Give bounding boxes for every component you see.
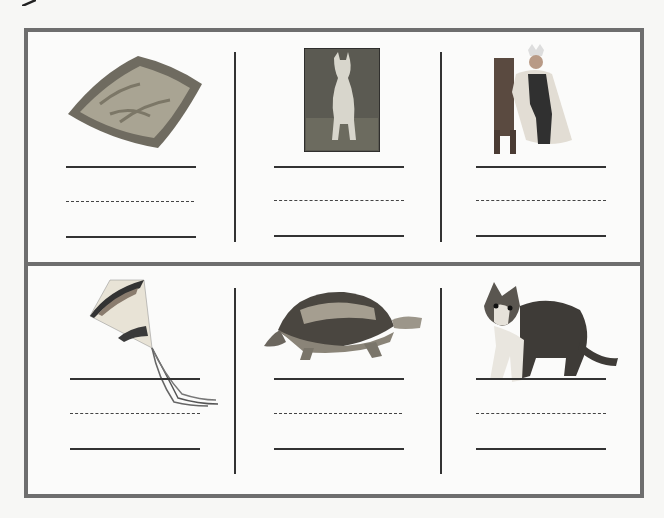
answer-line-top [274,166,404,168]
answer-line-top [66,166,196,168]
answer-line-middle [66,201,194,202]
answer-line-top [70,378,200,380]
item-kitten [440,266,640,486]
answer-line-top [476,378,606,380]
answer-line-middle [70,413,200,414]
answer-line-top [476,166,606,168]
answer-line-middle [274,200,404,201]
answer-line-middle [274,413,402,414]
item-kite [28,266,228,486]
item-turtle [234,266,434,486]
kangaroo-icon [304,48,380,152]
corner-mark [22,0,36,6]
answer-line-middle [476,200,606,201]
kite-icon [78,278,228,408]
answer-line-middle [476,413,606,414]
turtle-icon [264,286,424,366]
answer-line-top [274,378,404,380]
kitten-icon [480,276,620,386]
item-king [440,32,640,252]
answer-line-bottom [476,235,606,237]
item-kangaroo [234,32,434,252]
item-pillow [28,32,228,252]
answer-line-bottom [274,235,404,237]
answer-line-bottom [476,448,606,450]
answer-line-bottom [274,448,404,450]
worksheet-frame [24,28,644,498]
answer-line-bottom [70,448,200,450]
answer-line-bottom [66,236,196,238]
pillow-icon [60,44,208,154]
king-icon [490,44,586,156]
